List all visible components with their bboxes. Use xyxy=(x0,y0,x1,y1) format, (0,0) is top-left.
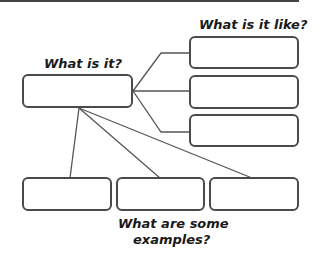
definition-label: What is it? xyxy=(44,56,122,71)
example-box-2[interactable] xyxy=(116,177,205,211)
characteristics-label: What is it like? xyxy=(199,17,307,32)
examples-label-line2: examples? xyxy=(133,232,210,247)
characteristic-box-1[interactable] xyxy=(189,36,299,69)
example-box-1[interactable] xyxy=(22,177,112,211)
example-box-3[interactable] xyxy=(209,177,299,211)
examples-label-line1: What are some xyxy=(118,216,229,231)
characteristic-box-3[interactable] xyxy=(189,114,299,147)
characteristic-box-2[interactable] xyxy=(189,75,299,109)
definition-box[interactable] xyxy=(22,74,133,108)
